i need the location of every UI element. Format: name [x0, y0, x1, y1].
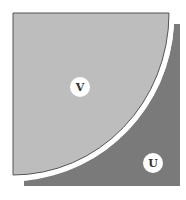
label-v-badge: V: [70, 77, 90, 97]
label-u-badge: U: [143, 153, 163, 173]
label-v: V: [75, 81, 85, 94]
set-diagram: V U: [0, 0, 186, 200]
label-u: U: [148, 157, 158, 170]
